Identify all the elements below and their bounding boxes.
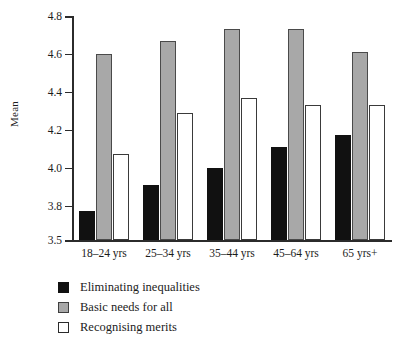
y-tick-mark bbox=[65, 206, 72, 208]
legend-item: Recognising merits bbox=[58, 317, 200, 337]
legend-item: Basic needs for all bbox=[58, 297, 200, 317]
legend-label: Eliminating inequalities bbox=[80, 281, 200, 294]
bar bbox=[207, 168, 223, 240]
y-tick-label: 4.4 bbox=[48, 86, 62, 98]
plot-area: 3.53.84.04.24.44.64.8 bbox=[72, 16, 392, 240]
chart-legend: Eliminating inequalitiesBasic needs for … bbox=[58, 277, 200, 337]
bar bbox=[160, 41, 176, 240]
y-tick-mark bbox=[65, 240, 72, 242]
x-axis-label: 65 yrs+ bbox=[328, 247, 392, 259]
x-axis-label: 25–34 yrs bbox=[136, 247, 200, 259]
bar bbox=[79, 211, 95, 240]
bar-group bbox=[79, 16, 129, 240]
y-tick-mark bbox=[65, 130, 72, 132]
x-axis-label: 45–64 yrs bbox=[264, 247, 328, 259]
legend-item: Eliminating inequalities bbox=[58, 277, 200, 297]
legend-swatch bbox=[58, 282, 69, 293]
bar-group bbox=[271, 16, 321, 240]
x-axis-line bbox=[72, 240, 392, 242]
bar bbox=[369, 105, 385, 240]
bar bbox=[224, 29, 240, 240]
y-tick-mark bbox=[65, 92, 72, 94]
bar bbox=[177, 113, 193, 240]
legend-swatch bbox=[58, 302, 69, 313]
y-tick-label: 3.5 bbox=[48, 234, 62, 246]
bar bbox=[288, 29, 304, 240]
bar bbox=[271, 147, 287, 240]
bar bbox=[96, 54, 112, 240]
bar bbox=[241, 98, 257, 240]
bar-group bbox=[335, 16, 385, 240]
bar bbox=[335, 135, 351, 240]
y-tick-label: 4.6 bbox=[48, 48, 62, 60]
x-axis-label: 35–44 yrs bbox=[200, 247, 264, 259]
y-tick-label: 4.8 bbox=[48, 10, 62, 22]
y-tick-mark bbox=[65, 16, 72, 18]
bar-group bbox=[143, 16, 193, 240]
x-axis-label: 18–24 yrs bbox=[72, 247, 136, 259]
bar bbox=[113, 154, 129, 240]
y-tick-mark bbox=[65, 168, 72, 170]
bar bbox=[305, 105, 321, 240]
legend-label: Recognising merits bbox=[80, 321, 177, 334]
y-tick-label: 4.2 bbox=[48, 124, 62, 136]
bar-chart: Mean 3.53.84.04.24.44.64.8 18–24 yrs25–3… bbox=[0, 0, 400, 341]
bar-group bbox=[207, 16, 257, 240]
y-tick-label: 3.8 bbox=[48, 200, 62, 212]
legend-swatch bbox=[58, 322, 69, 333]
y-tick-label: 4.0 bbox=[48, 162, 62, 174]
y-axis-title: Mean bbox=[8, 84, 20, 144]
legend-label: Basic needs for all bbox=[80, 301, 173, 314]
bar bbox=[352, 52, 368, 240]
y-tick-mark bbox=[65, 54, 72, 56]
bar bbox=[143, 185, 159, 240]
